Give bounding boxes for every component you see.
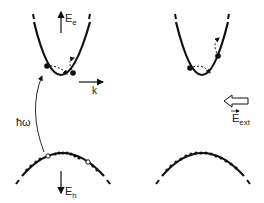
electron (70, 70, 76, 76)
k-label: k (92, 85, 98, 96)
external-field-arrow (224, 95, 248, 107)
band-diagram: Ee k ħω Eh (0, 0, 264, 203)
electron (187, 65, 193, 71)
eh-label: Eh (65, 185, 77, 200)
valence-band-curve (22, 153, 104, 176)
eext-label: Eext (232, 112, 251, 127)
hole (86, 160, 90, 164)
hbar-omega-label: ħω (16, 116, 31, 128)
right-panel: Eext (156, 14, 251, 184)
electron (44, 63, 50, 69)
valence-electrons-right (165, 151, 237, 171)
photon-excitation-arrow (35, 76, 44, 152)
hole (46, 154, 50, 158)
electron (215, 53, 221, 59)
ee-label: Ee (65, 12, 77, 27)
left-panel: Ee k ħω Eh (16, 12, 110, 200)
conduction-band-curve (34, 22, 90, 75)
